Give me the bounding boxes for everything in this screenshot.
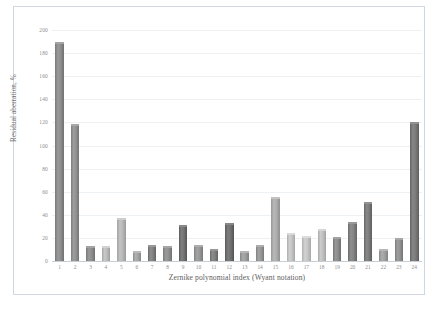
- figure-canvas: 020406080100120140160180200 Residual abe…: [0, 0, 443, 314]
- x-axis-title: Zernike polynomial index (Wyant notation…: [52, 273, 422, 282]
- x-tick-label: 24: [403, 264, 425, 270]
- x-axis-tick-labels: 123456789101112131415161718192021222324: [0, 0, 443, 314]
